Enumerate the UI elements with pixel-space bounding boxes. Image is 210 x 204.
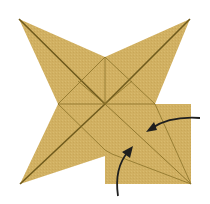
origami-diagram xyxy=(0,0,210,204)
origami-diagram-svg xyxy=(0,0,210,204)
